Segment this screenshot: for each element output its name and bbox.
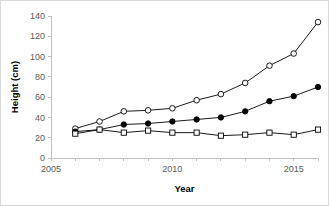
y-tick-label: 0	[40, 153, 45, 163]
data-point	[145, 121, 150, 126]
data-point	[218, 115, 223, 120]
y-tick-label: 20	[35, 133, 45, 143]
data-point	[243, 132, 248, 137]
data-point	[194, 130, 199, 135]
x-tick-label: 2005	[41, 164, 61, 174]
x-axis-title: Year	[174, 183, 194, 194]
data-point	[121, 109, 127, 115]
y-tick-label: 60	[35, 92, 45, 102]
data-point	[170, 119, 175, 124]
data-point	[97, 119, 103, 125]
data-point	[291, 93, 296, 98]
data-point	[267, 99, 272, 104]
series-filled-circle-series	[73, 84, 321, 134]
y-tick-label: 80	[35, 72, 45, 82]
data-point	[315, 127, 320, 132]
data-point	[242, 80, 248, 86]
x-axis-tick-labels: 200520102015	[41, 164, 304, 174]
data-point	[194, 117, 199, 122]
data-point	[267, 63, 273, 69]
y-axis-title: Height (cm)	[9, 61, 20, 113]
data-series-layer	[72, 19, 320, 138]
data-point	[170, 130, 175, 135]
chart-figure: 020406080100120140 200520102015 Height (…	[0, 0, 329, 206]
data-point	[97, 127, 102, 132]
data-point	[218, 91, 224, 97]
y-tick-label: 140	[30, 11, 45, 21]
series-open-circle-series	[72, 19, 320, 131]
x-tick-label: 2015	[284, 164, 304, 174]
data-point	[170, 106, 176, 112]
series-open-square-series	[73, 127, 321, 138]
data-point	[145, 128, 150, 133]
line-chart: 020406080100120140 200520102015 Height (…	[1, 1, 329, 206]
data-point	[121, 130, 126, 135]
data-point	[121, 122, 126, 127]
data-point	[218, 133, 223, 138]
data-point	[315, 84, 320, 89]
y-tick-label: 40	[35, 113, 45, 123]
data-point	[315, 19, 321, 25]
y-axis-tick-labels: 020406080100120140	[30, 11, 45, 163]
data-point	[267, 130, 272, 135]
data-point	[291, 132, 296, 137]
data-point	[145, 108, 151, 114]
data-point	[291, 51, 297, 57]
data-point	[194, 97, 200, 103]
x-tick-label: 2010	[162, 164, 182, 174]
y-tick-label: 120	[30, 31, 45, 41]
data-point	[242, 109, 247, 114]
data-point	[73, 131, 78, 136]
y-tick-label: 100	[30, 52, 45, 62]
